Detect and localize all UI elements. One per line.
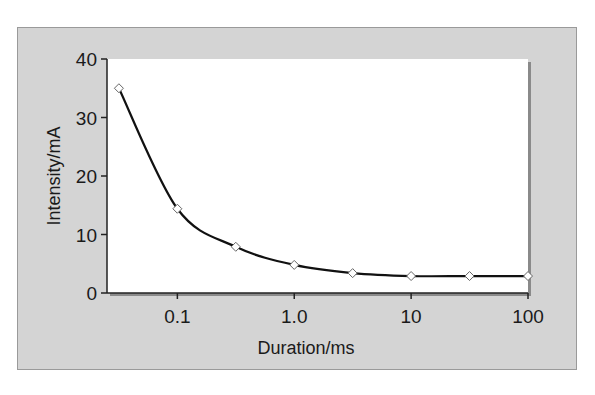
chart-svg: 010203040 0.11.010100 Intensity/mA Durat…: [0, 0, 595, 395]
x-tick-label: 100: [512, 306, 544, 327]
y-tick-label: 40: [76, 49, 97, 70]
x-tick-label: 0.1: [164, 306, 190, 327]
y-tick-label: 30: [76, 108, 97, 129]
x-tick-label: 1.0: [281, 306, 307, 327]
x-tick-label: 10: [401, 306, 422, 327]
y-tick-label: 20: [76, 166, 97, 187]
plot-background: [107, 59, 528, 293]
y-axis-label: Intensity/mA: [44, 126, 64, 225]
plot-area: [107, 59, 531, 296]
y-tick-label: 10: [76, 225, 97, 246]
y-axis: 010203040: [76, 49, 107, 304]
y-tick-label: 0: [86, 283, 97, 304]
x-axis-label: Duration/ms: [257, 338, 354, 358]
x-axis: 0.11.010100: [107, 293, 544, 327]
